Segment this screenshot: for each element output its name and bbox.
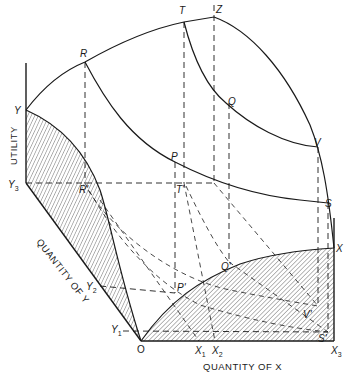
label-T-prime: T' bbox=[176, 184, 185, 195]
label-P-prime: P' bbox=[177, 282, 187, 293]
x-production-region bbox=[141, 248, 334, 341]
label-R: R bbox=[80, 48, 87, 59]
axis-title-quantity-x: QUANTITY OF X bbox=[203, 361, 282, 372]
label-S: S bbox=[325, 198, 332, 209]
label-Y: Y bbox=[14, 105, 22, 116]
tick-Y1: Y1 bbox=[111, 324, 122, 337]
tick-X3: X3 bbox=[330, 345, 342, 358]
tick-Y3: Y3 bbox=[8, 179, 19, 192]
tick-X2: X2 bbox=[211, 345, 223, 358]
tick-X1: X1 bbox=[194, 345, 206, 358]
dash-T-prime-Q-prime bbox=[186, 186, 229, 262]
label-Q: Q bbox=[228, 96, 236, 107]
label-V-prime: V' bbox=[303, 309, 313, 320]
utility-curve-R-P-S bbox=[85, 62, 328, 203]
label-R-prime: R' bbox=[79, 184, 89, 195]
label-P: P bbox=[171, 151, 178, 162]
label-X: X bbox=[335, 243, 343, 254]
label-T: T bbox=[179, 5, 186, 16]
y-production-region bbox=[26, 110, 141, 341]
utility-surface-diagram: R T Z Q V P S Y X O R' T' P' Q' V' S' Y3… bbox=[0, 0, 350, 376]
label-Q-prime: Q' bbox=[221, 261, 232, 272]
label-O: O bbox=[137, 344, 145, 355]
label-Z: Z bbox=[215, 4, 223, 15]
label-V: V bbox=[314, 137, 322, 148]
label-S-prime: S' bbox=[318, 333, 328, 344]
axis-title-utility: UTILITY bbox=[8, 126, 19, 165]
